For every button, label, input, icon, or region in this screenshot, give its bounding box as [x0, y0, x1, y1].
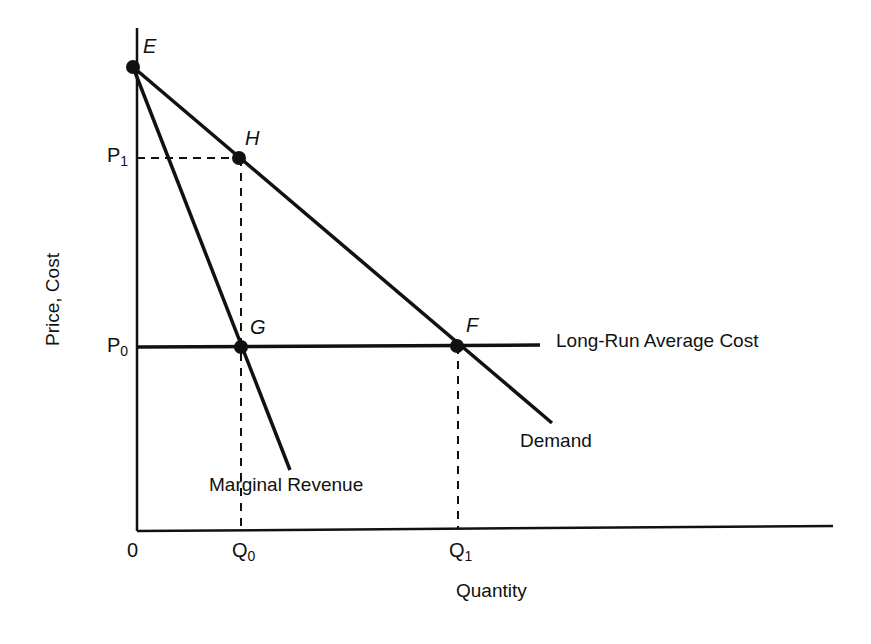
- tick-q0: Q0: [232, 539, 255, 564]
- tick-q1-sub: 1: [465, 548, 473, 564]
- tick-p1: P1: [107, 144, 128, 169]
- lrac-label: Long-Run Average Cost: [556, 330, 758, 352]
- demand-line: [133, 67, 552, 423]
- tick-q1-base: Q: [449, 539, 465, 561]
- point-e-label: E: [143, 35, 156, 58]
- point-h-dot: [232, 151, 246, 165]
- point-g-label: G: [250, 316, 266, 339]
- lrac-line: [137, 345, 540, 347]
- origin-label: 0: [127, 539, 138, 562]
- point-g-dot: [234, 340, 248, 354]
- x-axis-title: Quantity: [456, 580, 527, 602]
- demand-label: Demand: [520, 430, 592, 452]
- point-h-label: H: [245, 127, 259, 150]
- marginal-revenue-line: [133, 67, 290, 470]
- tick-p0: P0: [107, 334, 128, 359]
- tick-p1-base: P: [107, 144, 120, 166]
- tick-p1-sub: 1: [120, 153, 128, 169]
- tick-p0-sub: 0: [120, 343, 128, 359]
- tick-q1: Q1: [449, 539, 472, 564]
- point-e-dot: [126, 60, 140, 74]
- marginal-revenue-label: Marginal Revenue: [209, 474, 363, 496]
- tick-p0-base: P: [107, 334, 120, 356]
- point-f-dot: [450, 339, 464, 353]
- x-axis: [137, 526, 833, 531]
- tick-q0-base: Q: [232, 539, 248, 561]
- y-axis-title: Price, Cost: [42, 253, 64, 346]
- point-f-label: F: [466, 314, 478, 337]
- tick-q0-sub: 0: [248, 548, 256, 564]
